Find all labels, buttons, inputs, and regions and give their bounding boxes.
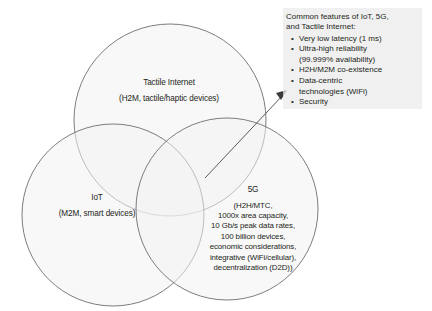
5g-detail-line-0: (H2H/MTC, xyxy=(181,201,325,211)
iot-subtitle: (M2M, smart devices) xyxy=(14,209,180,220)
5g-detail-line-2: 10 Gb/s peak data rates, xyxy=(181,221,325,231)
5g-detail-line-5: integrative (WiFi/cellular), xyxy=(181,253,325,263)
bullet-dot-icon: • xyxy=(291,97,294,108)
callout-bullet-text: Data-centric xyxy=(299,76,342,85)
iot-title: IoT xyxy=(14,193,180,204)
5g-detail-line-1: 1000x area capacity, xyxy=(181,211,325,221)
label-iot: IoT (M2M, smart devices) xyxy=(14,193,180,219)
callout-bullet-text: Ultra-high reliability xyxy=(299,44,367,53)
bullet-dot-icon: • xyxy=(291,76,294,87)
callout-bullet-4: •Security xyxy=(286,97,426,108)
callout-bullet-continuation: (99.999% availability) xyxy=(299,55,426,66)
tactile-internet-subtitle: (H2M, tactile/haptic devices) xyxy=(86,94,252,105)
bullet-dot-icon: • xyxy=(291,44,294,55)
callout-bullet-2: •H2H/M2M co-existence xyxy=(286,65,426,76)
5g-detail-line-4: economic considerations, xyxy=(181,242,325,252)
callout-heading-line-0: Common features of IoT, 5G, xyxy=(286,12,426,22)
callout-heading: Common features of IoT, 5G,and Tactile I… xyxy=(286,12,426,33)
callout-bullet-1: •Ultra-high reliability(99.999% availabi… xyxy=(286,44,426,65)
label-tactile-internet: Tactile Internet (H2M, tactile/haptic de… xyxy=(86,78,252,104)
callout-bullet-continuation: technologies (WiFi) xyxy=(299,87,426,98)
label-5g: 5G (H2H/MTC,1000x area capacity,10 Gb/s … xyxy=(181,185,325,273)
callout-bullet-text: Very low latency (1 ms) xyxy=(299,34,382,43)
callout-common-features: Common features of IoT, 5G,and Tactile I… xyxy=(286,12,426,108)
5g-detail-lines: (H2H/MTC,1000x area capacity,10 Gb/s pea… xyxy=(181,201,325,274)
5g-title: 5G xyxy=(181,185,325,196)
bullet-dot-icon: • xyxy=(291,34,294,45)
bullet-dot-icon: • xyxy=(291,65,294,76)
tactile-internet-title: Tactile Internet xyxy=(86,78,252,89)
5g-detail-line-3: 100 billion devices, xyxy=(181,232,325,242)
callout-bullet-list: •Very low latency (1 ms)•Ultra-high reli… xyxy=(286,34,426,108)
callout-bullet-text: Security xyxy=(299,97,328,106)
venn-diagram-figure: Tactile Internet (H2M, tactile/haptic de… xyxy=(0,0,432,311)
callout-heading-line-1: and Tactile Internet: xyxy=(286,22,426,32)
callout-bullet-text: H2H/M2M co-existence xyxy=(299,65,382,74)
5g-detail-line-6: decentralization (D2D)) xyxy=(181,263,325,273)
callout-bullet-3: •Data-centrictechnologies (WiFi) xyxy=(286,76,426,97)
callout-bullet-0: •Very low latency (1 ms) xyxy=(286,34,426,45)
